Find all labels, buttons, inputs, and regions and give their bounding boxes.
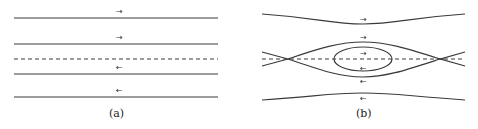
- panel-b: → → → ← ← ← (b): [262, 14, 465, 120]
- arrow-left-icon: ←: [360, 94, 367, 103]
- arrow-left-icon: ←: [360, 64, 367, 73]
- arrow-left-icon: ←: [116, 63, 123, 72]
- caption-b: (b): [356, 107, 372, 120]
- figure-canvas: → → ← ← (a) → → → ← ← ← (b): [0, 0, 478, 129]
- caption-a: (a): [109, 107, 124, 120]
- arrow-right-icon: →: [360, 49, 367, 58]
- arrow-right-icon: →: [360, 15, 367, 24]
- arrow-left-icon: ←: [116, 86, 123, 95]
- arrow-left-icon: ←: [360, 77, 367, 86]
- panel-a: → → ← ← (a): [14, 7, 218, 120]
- arrow-right-icon: →: [116, 33, 123, 42]
- arrow-right-icon: →: [116, 7, 123, 16]
- arrow-right-icon: →: [360, 33, 367, 42]
